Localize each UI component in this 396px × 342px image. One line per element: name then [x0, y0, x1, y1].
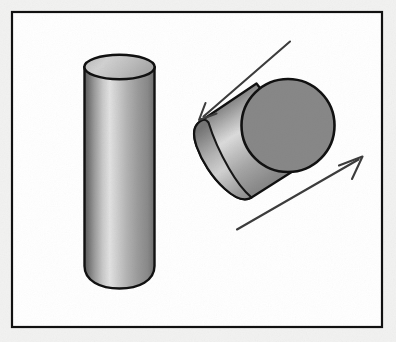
- cylinder-rotation-diagram: Rotation of a cylinder about its longitu…: [0, 0, 396, 342]
- figure-container: Rotation of a cylinder about its longitu…: [0, 0, 396, 342]
- upright-cylinder-body: [85, 67, 155, 289]
- upright-cylinder: [84, 55, 154, 289]
- upright-cylinder-top-cap: [84, 55, 154, 79]
- tilted-cylinder-front-face: [242, 79, 335, 172]
- figure-panel: [12, 12, 382, 327]
